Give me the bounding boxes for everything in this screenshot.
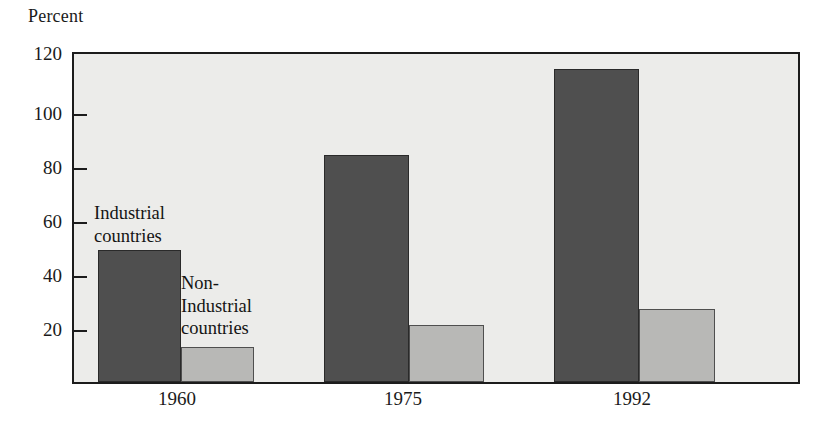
y-tick-label-120: 120 <box>34 43 63 65</box>
y-tick-mark-100 <box>74 114 87 116</box>
non-industrial-label-line-3: countries <box>181 317 252 340</box>
bar-industrial-1960 <box>98 250 181 382</box>
industrial-label-line-1: Industrial <box>94 202 165 225</box>
bar-chart-figure: Percent 120 100 80 60 40 20 Industrial c… <box>0 0 818 427</box>
y-tick-label-40: 40 <box>43 265 62 287</box>
non-industrial-label-line-1: Non- <box>181 272 252 295</box>
y-tick-mark-20 <box>74 330 87 332</box>
x-tick-label-1975: 1975 <box>384 388 422 410</box>
y-tick-label-80: 80 <box>43 157 62 179</box>
y-tick-mark-60 <box>74 222 87 224</box>
non-industrial-series-label: Non- Industrial countries <box>181 272 252 340</box>
y-tick-label-60: 60 <box>43 211 62 233</box>
plot-area: Industrial countries Non- Industrial cou… <box>74 54 798 382</box>
y-tick-mark-40 <box>74 276 87 278</box>
industrial-label-line-2: countries <box>94 225 165 248</box>
bar-non-industrial-1960 <box>181 347 254 382</box>
plot-frame: Industrial countries Non- Industrial cou… <box>72 52 800 384</box>
bar-non-industrial-1975 <box>409 325 484 382</box>
y-tick-label-20: 20 <box>43 319 62 341</box>
industrial-series-label: Industrial countries <box>94 202 165 247</box>
bar-industrial-1975 <box>324 155 409 382</box>
bar-non-industrial-1992 <box>639 309 715 382</box>
non-industrial-label-line-2: Industrial <box>181 295 252 318</box>
y-axis-tick-labels: 120 100 80 60 40 20 <box>0 0 66 427</box>
x-tick-label-1992: 1992 <box>613 388 651 410</box>
bar-industrial-1992 <box>554 69 639 382</box>
x-axis-tick-labels: 1960 1975 1992 <box>72 388 800 422</box>
y-tick-mark-80 <box>74 168 87 170</box>
x-tick-label-1960: 1960 <box>158 388 196 410</box>
y-tick-label-100: 100 <box>34 103 63 125</box>
